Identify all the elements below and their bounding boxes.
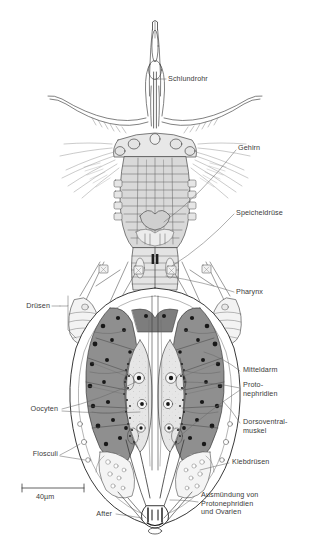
brain-mastax-group [114,157,196,248]
label-protonephridien: Proto-nephridien [243,381,278,398]
label-gehirn: Gehirn [238,144,260,153]
leader-flosculi-a [60,444,80,455]
label-speicheldruese: Speicheldrüse [236,209,283,218]
label-ausmuendung: Ausmündung vonProtonephridienund Ovarien [201,491,258,517]
label-dorsoventralmuskel-line2: muskel [243,426,266,435]
scale-bar-label: 40µm [36,492,54,501]
figure-canvas: Schlundrohr Gehirn Speicheldrüse Pharynx… [0,0,310,537]
lateral-spines [48,96,262,133]
label-mitteldarm: Mitteldarm [243,366,278,375]
label-protonephridien-line2: nephridien [243,389,278,398]
proboscis-group [145,21,164,129]
label-oocyten: Oocyten [0,405,58,414]
label-schlundrohr: Schlundrohr [168,75,208,84]
label-after: After [60,510,112,519]
label-flosculi: Flosculi [0,450,58,459]
label-dorsoventralmuskel: Dorsoventral-muskel [243,418,287,435]
illustration-body [22,21,262,535]
label-pharynx: Pharynx [236,288,263,297]
scale-bar [22,484,84,492]
label-druesen: Drüsen [0,302,50,311]
label-ausmuendung-line3: und Ovarien [201,507,241,516]
label-klebdruesen: Klebdrüsen [232,458,269,467]
